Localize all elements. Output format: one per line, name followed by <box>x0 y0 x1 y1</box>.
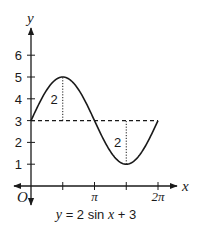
equation-caption: y = 2 sin x + 3 <box>54 207 136 222</box>
y-tick-label: 3 <box>15 114 22 129</box>
y-tick-label: 1 <box>15 157 22 172</box>
x-axis-label: x <box>181 178 189 194</box>
chart: π2π123456 22 y x O y = 2 sin x + 3 <box>0 0 199 233</box>
y-tick-label: 2 <box>15 135 22 150</box>
x-tick-label: 2π <box>151 189 165 204</box>
y-axis-label: y <box>25 10 34 26</box>
amplitude-label: 2 <box>51 92 58 107</box>
y-tick-label: 5 <box>15 70 22 85</box>
caption-rest: + 3 <box>114 207 136 222</box>
y-tick-label: 6 <box>15 48 22 63</box>
caption-eq: = 2 sin <box>62 207 108 222</box>
x-tick-label: π <box>91 189 98 204</box>
y-tick-label: 4 <box>15 92 22 107</box>
amplitude-label: 2 <box>114 135 121 150</box>
origin-label: O <box>17 189 28 205</box>
